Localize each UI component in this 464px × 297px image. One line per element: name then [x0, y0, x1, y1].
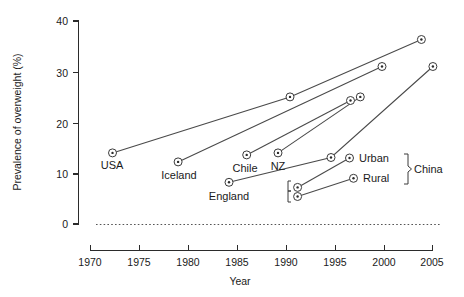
- data-point-nz-1989: [274, 149, 282, 157]
- x-axis: 1970 1975 1980 1985 1990 1995 2000 2005 …: [78, 245, 444, 287]
- data-point-england-1984: [225, 178, 233, 186]
- chart-container: 40 30 20 10 0 Prevalence of overweight (…: [0, 0, 464, 297]
- data-point-usa-1990: [286, 93, 294, 101]
- series-annotation-iceland: Iceland: [161, 169, 196, 181]
- x-tick-label-2000: 2000: [372, 256, 396, 268]
- y-axis: 40 30 20 10 0 Prevalence of overweight (…: [11, 15, 79, 230]
- data-point-china-rural-1991: [294, 193, 302, 201]
- data-point-chile-1986: [243, 151, 251, 159]
- series-line-usa: [113, 40, 422, 153]
- x-tick-label-1990: 1990: [274, 256, 298, 268]
- data-point-chile-1997: [347, 97, 355, 105]
- china-rural-start-bracket: [288, 191, 291, 202]
- x-axis-title: Year: [229, 275, 251, 287]
- data-point-nz-1998: [356, 93, 364, 101]
- data-point-china-rural-1997: [350, 174, 358, 182]
- group-annotation-china: China: [414, 163, 444, 175]
- x-tick-label-1970: 1970: [78, 256, 102, 268]
- series-annotation-england: England: [209, 190, 249, 202]
- china-urban-start-bracket: [288, 181, 291, 191]
- series-annotation-rural: Rural: [363, 172, 389, 184]
- x-tick-label-1985: 1985: [225, 256, 249, 268]
- series-line-nz: [278, 97, 360, 153]
- y-tick-label-30: 30: [56, 67, 68, 79]
- y-axis-title: Prevalence of overweight (%): [11, 53, 23, 190]
- data-point-usa-2004: [417, 36, 425, 44]
- series-line-china-urban: [298, 158, 350, 187]
- series-annotation-urban: Urban: [359, 152, 389, 164]
- data-point-usa-1972: [109, 149, 117, 157]
- series-annotation-chile: Chile: [232, 162, 257, 174]
- y-tick-label-40: 40: [56, 15, 68, 27]
- x-tick-label-2005: 2005: [420, 256, 444, 268]
- x-tick-label-1980: 1980: [176, 256, 200, 268]
- overweight-prevalence-line-chart: 40 30 20 10 0 Prevalence of overweight (…: [0, 0, 464, 297]
- series-annotation-usa: USA: [101, 159, 124, 171]
- x-tick-label-1995: 1995: [323, 256, 347, 268]
- data-point-england-2005: [429, 63, 437, 71]
- data-point-iceland-1979: [174, 158, 182, 166]
- data-point-iceland-2000: [378, 63, 386, 71]
- series-line-iceland: [178, 67, 382, 162]
- data-point-england-1995: [327, 154, 335, 162]
- data-point-china-urban-1997: [346, 154, 354, 162]
- x-tick-label-1975: 1975: [127, 256, 151, 268]
- series-line-england: [229, 67, 433, 183]
- y-tick-label-10: 10: [56, 168, 68, 180]
- y-tick-label-20: 20: [56, 118, 68, 130]
- series-line-china-rural: [298, 178, 354, 196]
- series-line-chile: [247, 101, 351, 155]
- china-group-brace: [404, 154, 412, 184]
- data-point-china-urban-1991: [294, 183, 302, 191]
- series-annotation-nz: NZ: [271, 160, 286, 172]
- y-tick-label-0: 0: [62, 218, 68, 230]
